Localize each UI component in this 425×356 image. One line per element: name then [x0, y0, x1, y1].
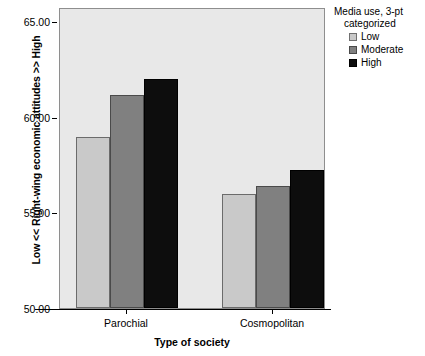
x-tick-mark-cosmopolitan	[272, 309, 273, 314]
legend-label-low: Low	[361, 31, 379, 42]
y-tick-mark-65	[52, 22, 57, 23]
legend-swatch-high-icon	[349, 59, 357, 67]
bar-parochial-low	[76, 137, 110, 308]
legend-label-high: High	[361, 57, 382, 68]
legend-item-high: High	[333, 57, 425, 68]
legend: Media use, 3-pt categorized Low Moderate…	[333, 6, 425, 68]
legend-title-line2: categorized	[334, 18, 425, 30]
bar-cosmopolitan-low	[222, 194, 256, 308]
x-tick-label-parochial: Parochial	[66, 317, 186, 329]
legend-swatch-moderate-icon	[349, 46, 357, 54]
x-axis-line	[35, 309, 331, 310]
y-tick-label-60: 60.00	[8, 113, 50, 123]
bar-cosmopolitan-moderate	[256, 186, 290, 308]
x-tick-label-cosmopolitan: Cosmopolitan	[212, 317, 332, 329]
bar-cosmopolitan-high	[290, 170, 324, 308]
legend-item-moderate: Moderate	[333, 44, 425, 55]
y-tick-label-65: 65.00	[8, 17, 50, 27]
y-tick-mark-55	[52, 213, 57, 214]
y-tick-mark-60	[52, 118, 57, 119]
y-axis-ticks: 65.00 60.00 55.00 50.00	[0, 0, 50, 356]
bar-chart: Low << Right-wing economic attitudes >> …	[0, 0, 425, 356]
x-tick-mark-parochial	[126, 309, 127, 314]
plot-area	[59, 8, 325, 309]
x-axis-title: Type of society	[59, 336, 325, 348]
legend-label-moderate: Moderate	[361, 44, 403, 55]
legend-item-low: Low	[333, 31, 425, 42]
bar-parochial-moderate	[110, 95, 144, 308]
y-tick-label-55: 55.00	[8, 208, 50, 218]
bar-parochial-high	[144, 79, 178, 308]
legend-title-line1: Media use, 3-pt	[334, 6, 403, 17]
legend-title: Media use, 3-pt categorized	[333, 6, 425, 29]
legend-swatch-low-icon	[349, 33, 357, 41]
